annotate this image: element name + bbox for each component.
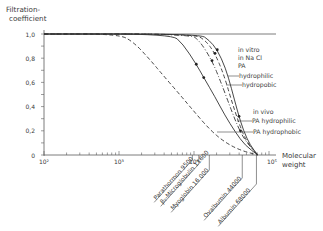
y-axis-label-line2: coefficient xyxy=(9,14,47,23)
series-line-2 xyxy=(44,34,258,155)
data-point xyxy=(216,48,219,51)
x-axis-label-line1: Molecular xyxy=(282,152,316,160)
series-line-3 xyxy=(44,34,258,155)
in-vivo-label: in vivo xyxy=(253,108,274,115)
in-vitro-hydrophobic-label: hydropobic xyxy=(242,81,277,89)
series-line-1 xyxy=(44,34,258,155)
x-tick-label: 10³ xyxy=(114,158,125,165)
x-axis-label-line2: weight xyxy=(282,161,306,169)
y-tick-label: 0,8 xyxy=(25,55,35,62)
y-tick-label: 0,4 xyxy=(25,103,35,110)
series-line-0 xyxy=(44,34,258,155)
x-tick-label: 10⁵ xyxy=(267,158,278,165)
in-vitro-label: in Na Cl xyxy=(238,54,262,61)
in-vivo-hydrophobic-label: PA hydrophobic xyxy=(253,128,302,136)
data-point xyxy=(202,76,205,79)
y-tick-label: 0,6 xyxy=(25,79,35,86)
y-tick-label: 0,2 xyxy=(25,127,35,134)
data-point xyxy=(195,63,198,66)
data-point xyxy=(214,52,217,55)
series-line-4 xyxy=(44,34,258,155)
in-vitro-label: PA xyxy=(238,62,246,69)
data-point xyxy=(238,115,241,118)
in-vitro-label: in vitro xyxy=(238,46,260,53)
y-tick-label: 1,0 xyxy=(25,31,35,38)
y-tick-label: 0 xyxy=(31,152,35,159)
data-point xyxy=(211,59,214,62)
y-axis-label-line1: Filtration- xyxy=(6,5,41,14)
x-tick-label: 10² xyxy=(39,158,50,165)
in-vivo-hydrophilic-label: PA hydrophilic xyxy=(252,117,296,125)
filtration-coefficient-chart: Filtration- coefficient Molecular weight… xyxy=(0,0,323,231)
in-vitro-hydrophilic-label: hydrophilic xyxy=(239,72,274,80)
